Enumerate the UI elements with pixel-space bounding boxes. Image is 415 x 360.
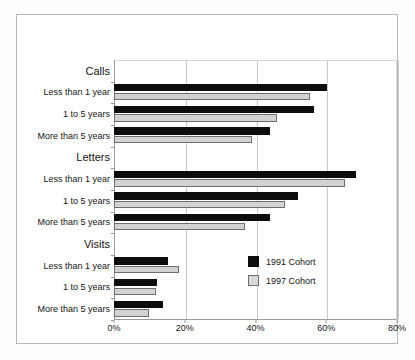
gridline-80 xyxy=(398,61,399,319)
y-axis-category-label: Less than 1 year xyxy=(43,88,110,97)
chart-screenshot: CallsLess than 1 year1 to 5 yearsMore th… xyxy=(0,0,415,360)
group-label-visits: Visits xyxy=(84,239,110,250)
bar-1991-cohort xyxy=(114,192,298,199)
bar-1991-cohort xyxy=(114,257,168,264)
y-axis-category-label: 1 to 5 years xyxy=(63,283,110,292)
y-axis-category-label: 1 to 5 years xyxy=(63,196,110,205)
y-axis-category-label: More than 5 years xyxy=(37,305,110,314)
bar-row: More than 5 years xyxy=(114,298,397,320)
bar-row: More than 5 years xyxy=(114,125,397,147)
bar-group-header-letters: Letters xyxy=(114,147,397,169)
y-axis-category-label: Less than 1 year xyxy=(43,261,110,270)
group-label-calls: Calls xyxy=(86,65,110,76)
legend-swatch-icon xyxy=(248,256,259,267)
bar-1991-cohort xyxy=(114,127,270,134)
y-axis-category-label: More than 5 years xyxy=(37,218,110,227)
bar-1991-cohort xyxy=(114,279,157,286)
bar-1991-cohort xyxy=(114,301,163,308)
bar-1997-cohort xyxy=(114,136,252,143)
bar-row: 1 to 5 years xyxy=(114,103,397,125)
legend-item: 1997 Cohort xyxy=(248,275,316,286)
y-axis-category-label: Less than 1 year xyxy=(43,175,110,184)
bar-pair xyxy=(114,106,397,123)
bar-1997-cohort xyxy=(114,309,149,316)
bar-1997-cohort xyxy=(114,114,277,121)
bar-pair xyxy=(114,127,397,144)
bar-1991-cohort xyxy=(114,171,356,178)
bar-1997-cohort xyxy=(114,266,179,273)
y-axis-category-label: More than 5 years xyxy=(37,131,110,140)
bar-row: More than 5 years xyxy=(114,212,397,234)
bar-1997-cohort xyxy=(114,93,310,100)
bar-1997-cohort xyxy=(114,288,156,295)
bar-pair xyxy=(114,301,397,318)
legend-label: 1997 Cohort xyxy=(266,276,316,286)
bar-row: 1 to 5 years xyxy=(114,190,397,212)
bar-pair xyxy=(114,214,397,231)
bar-pair xyxy=(114,171,397,188)
bar-pair xyxy=(114,192,397,209)
bar-1991-cohort xyxy=(114,214,270,221)
bar-1991-cohort xyxy=(114,84,327,91)
bar-group-header-calls: Calls xyxy=(114,60,397,82)
x-axis-tick-labels: 0%20%40%60%80% xyxy=(114,323,397,339)
group-label-letters: Letters xyxy=(76,152,110,163)
bar-1997-cohort xyxy=(114,223,245,230)
y-axis-category-label: 1 to 5 years xyxy=(63,110,110,119)
bar-row: Less than 1 year xyxy=(114,168,397,190)
bar-row: Less than 1 year xyxy=(114,82,397,104)
bar-1997-cohort xyxy=(114,201,285,208)
x-axis-tick-label: 80% xyxy=(388,323,406,333)
legend-item: 1991 Cohort xyxy=(248,256,316,267)
legend-swatch-icon xyxy=(248,275,259,286)
bar-1991-cohort xyxy=(114,106,314,113)
figure-frame: CallsLess than 1 year1 to 5 yearsMore th… xyxy=(16,14,398,344)
x-axis-tick-label: 60% xyxy=(317,323,335,333)
x-axis-tick-label: 0% xyxy=(107,323,120,333)
chart-legend: 1991 Cohort1997 Cohort xyxy=(248,256,316,286)
legend-label: 1991 Cohort xyxy=(266,257,316,267)
bar-group-header-visits: Visits xyxy=(114,233,397,255)
x-axis-tick-label: 20% xyxy=(176,323,194,333)
x-axis-tick-label: 40% xyxy=(246,323,264,333)
bar-1997-cohort xyxy=(114,179,345,186)
bar-pair xyxy=(114,84,397,101)
